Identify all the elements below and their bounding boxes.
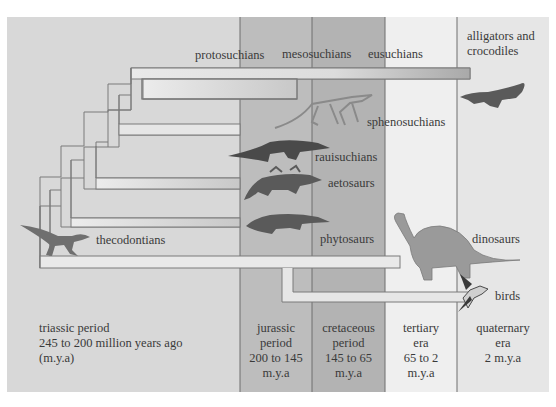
period-range: 200 to 145 (240, 351, 312, 366)
period-label-triassic: triassic period 245 to 200 million years… (39, 321, 182, 366)
period-type: period (312, 336, 385, 351)
period-type: era (385, 336, 457, 351)
period-name: jurassic (240, 321, 312, 336)
period-label-quaternary: quaternary era 2 m.y.a (457, 321, 549, 366)
label-alligators-line2: crocodiles (467, 44, 535, 59)
period-name: quaternary (457, 321, 549, 336)
period-unit: m.y.a (312, 366, 385, 381)
branch-protosuchians (142, 79, 297, 99)
period-label-cretaceous: cretaceous period 145 to 65 m.y.a (312, 321, 385, 381)
period-label-jurassic: jurassic period 200 to 145 m.y.a (240, 321, 312, 381)
label-thecodontians: thecodontians (96, 233, 165, 248)
period-type: era (457, 336, 549, 351)
period-name: cretaceous (312, 321, 385, 336)
period-range: 145 to 65 (312, 351, 385, 366)
label-mesosuchians: mesosuchians (282, 47, 351, 62)
label-protosuchians: protosuchians (195, 48, 264, 63)
label-alligators-crocodiles: alligators and crocodiles (467, 29, 535, 59)
branch-dinosaurs (40, 256, 400, 268)
period-range: 245 to 200 million years ago (39, 336, 182, 351)
period-unit: (m.y.a) (39, 351, 182, 366)
period-name: tertiary (385, 321, 457, 336)
label-eusuchians: eusuchians (368, 47, 423, 62)
period-range: 2 m.y.a (457, 351, 549, 366)
period-range: 65 to 2 (385, 351, 457, 366)
period-unit: m.y.a (385, 366, 457, 381)
label-rauisuchians: rauisuchians (315, 150, 377, 165)
label-alligators-line1: alligators and (467, 29, 535, 44)
label-aetosaurs: aetosaurs (328, 176, 375, 191)
label-phytosaurs: phytosaurs (320, 232, 374, 247)
phylogeny-diagram: protosuchians mesosuchians eusuchians al… (0, 0, 556, 407)
period-type: period (240, 336, 312, 351)
period-unit: m.y.a (240, 366, 312, 381)
label-dinosaurs: dinosaurs (472, 232, 520, 247)
label-sphenosuchians: sphenosuchians (367, 115, 445, 130)
period-label-tertiary: tertiary era 65 to 2 m.y.a (385, 321, 457, 381)
period-name: triassic period (39, 321, 182, 336)
label-birds: birds (495, 289, 520, 304)
